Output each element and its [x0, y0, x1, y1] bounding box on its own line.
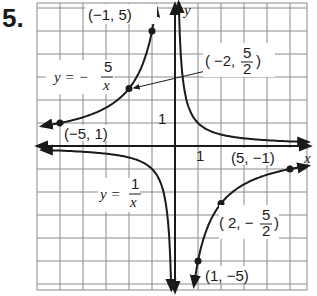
- point-label-neg5-1: (−5, 1): [64, 125, 108, 142]
- point-label-neg1-5: (−1, 5): [88, 6, 132, 23]
- equation-1-over-x: y =: [98, 186, 121, 202]
- hyperbola-graph: (−1, 5) ( −2, 5 2 ) y = − 5 x (−5, 1) 1 …: [0, 0, 317, 296]
- point-label-2: 2, −: [228, 214, 254, 231]
- eq1-num: 5: [104, 58, 112, 75]
- eq2-num: 1: [131, 175, 139, 192]
- y-axis-label: y: [182, 2, 191, 18]
- point-label-1-neg5: (1, −5): [205, 267, 249, 284]
- pointer-line: [134, 70, 210, 88]
- x-axis-label: x: [303, 150, 311, 166]
- point-label-5-neg1: (5, −1): [231, 149, 275, 166]
- x-tick-1: 1: [196, 147, 204, 164]
- equation-neg5-over-x: y = −: [52, 69, 88, 85]
- fraction-num-2: 5: [262, 206, 270, 223]
- paren-close: ): [256, 52, 261, 69]
- paren-open: (: [205, 52, 210, 69]
- y-tick-1: 1: [158, 110, 166, 127]
- fraction-num: 5: [243, 44, 251, 61]
- fraction-den-2: 2: [262, 222, 270, 239]
- point-label-neg2: −2,: [214, 52, 235, 69]
- paren-open-2: (: [219, 214, 224, 231]
- fraction-den: 2: [243, 60, 251, 77]
- paren-close-2: ): [274, 214, 279, 231]
- eq1-den: x: [102, 77, 110, 93]
- eq2-den: x: [129, 194, 137, 210]
